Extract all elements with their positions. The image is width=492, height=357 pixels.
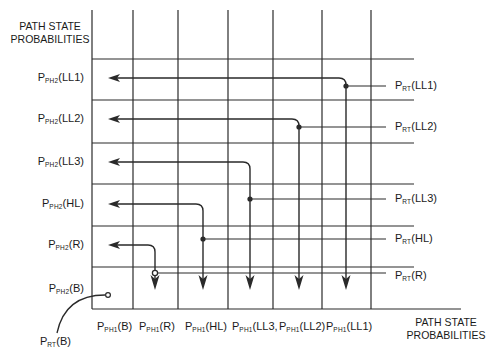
- filled-node-icon: [200, 236, 205, 241]
- transition-path-ll3: [116, 162, 250, 280]
- markov-path-state-diagram: [0, 0, 492, 357]
- x-axis-title-line-2: PROBABILITIES: [400, 329, 492, 342]
- source-label: PRT(LL2): [395, 121, 437, 134]
- hollow-node-icon: [106, 293, 111, 298]
- x-axis-title: PATH STATE PROBABILITIES: [400, 316, 492, 342]
- y-axis-title: PATH STATE PROBABILITIES: [10, 20, 90, 46]
- row-label: PPH2(LL2): [38, 113, 84, 126]
- row-label: PPH2(LL3): [38, 156, 84, 169]
- column-label: PPH1(R): [139, 321, 175, 334]
- source-label: PRT(LL3): [395, 193, 437, 206]
- transition-path-r: [116, 245, 155, 280]
- row-label: PPH2(HL): [42, 198, 84, 211]
- grid-lines: [92, 10, 461, 309]
- row-label: PPH2(LL1): [38, 72, 84, 85]
- source-label: PRT(HL): [395, 233, 433, 246]
- filled-node-icon: [296, 124, 301, 129]
- hollow-node-icon: [152, 270, 157, 275]
- source-label: PRT(LL1): [395, 80, 437, 93]
- transition-paths: [108, 74, 386, 290]
- column-label: PPH1(LL3,: [232, 321, 278, 334]
- source-label: PRT(R): [395, 270, 427, 283]
- transition-path-ll1: [116, 78, 346, 280]
- y-axis-title-line-1: PATH STATE: [10, 20, 90, 33]
- column-label: PPH1(LL1): [326, 321, 372, 334]
- column-label: PPH1(LL2): [279, 321, 325, 334]
- column-label: PPH1(HL): [185, 321, 227, 334]
- transition-path-hl: [116, 204, 203, 280]
- rt-b-label: PRT(B): [40, 336, 71, 349]
- row-label: PPH2(B): [49, 283, 84, 296]
- x-axis-title-line-1: PATH STATE: [400, 316, 492, 329]
- filled-node-icon: [343, 83, 348, 88]
- column-label: PPH1(B): [97, 321, 132, 334]
- row-label: PPH2(R): [48, 239, 84, 252]
- y-axis-title-line-2: PROBABILITIES: [10, 33, 90, 46]
- filled-node-icon: [247, 196, 252, 201]
